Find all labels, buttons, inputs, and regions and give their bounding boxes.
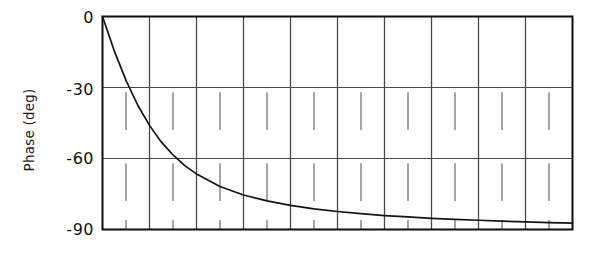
phase-plot-figure: Phase (deg) 0 -30 -60 -90 [0,0,595,259]
plot-area [0,0,595,259]
vertical-gridlines [150,17,526,230]
